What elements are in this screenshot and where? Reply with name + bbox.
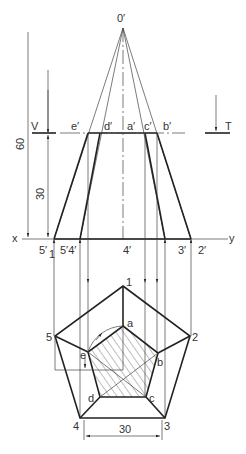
front-view: [22, 28, 230, 239]
label-b: b: [157, 356, 163, 368]
label-e-prime: e′: [71, 120, 79, 132]
section-t-label: T: [225, 120, 232, 132]
label-54-prime: 5′4′: [60, 244, 76, 256]
section-v-label: V: [31, 120, 39, 132]
pyramid-section-drawing: 0′ V T e′ d′ a′ c′ b′ x y 5′ 1 5′4′ 4′ 3…: [0, 0, 246, 454]
dim-height: 60: [14, 138, 26, 150]
label-y: y: [229, 232, 235, 244]
label-5: 5: [46, 331, 52, 343]
label-2: 2: [192, 331, 198, 343]
label-d: d: [88, 392, 94, 404]
label-3: 3: [164, 420, 170, 432]
top-view: [55, 286, 190, 440]
dim-section-height: 30: [34, 188, 46, 200]
label-5-1-prime: 5′: [39, 244, 47, 256]
label-x: x: [12, 232, 18, 244]
label-a: a: [127, 317, 134, 329]
label-c-prime: c′: [144, 120, 152, 132]
label-e: e: [80, 349, 86, 361]
label-b-prime: b′: [163, 120, 171, 132]
label-a-prime: a′: [127, 120, 135, 132]
label-1: 1: [126, 276, 132, 288]
label-5-1-sub: 1: [49, 248, 55, 260]
label-3-prime: 3′: [178, 244, 186, 256]
label-2-prime: 2′: [198, 244, 206, 256]
label-4: 4: [73, 420, 79, 432]
label-c: c: [149, 392, 155, 404]
label-4-prime: 4′: [123, 244, 131, 256]
dim-base-edge: 30: [119, 423, 131, 435]
apex-label: 0′: [117, 12, 125, 24]
label-d-prime: d′: [104, 120, 112, 132]
